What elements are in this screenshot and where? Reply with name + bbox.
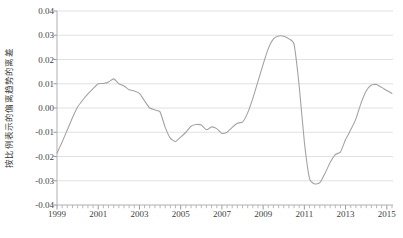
plot-area <box>0 0 403 238</box>
y-axis-major-ticks <box>54 11 58 205</box>
chart-container: 按比例表示的偏离趋势的离差 0.040.030.020.010.00-0.01-… <box>0 0 403 238</box>
gridlines <box>57 11 393 181</box>
x-axis-minor-ticks <box>57 205 392 210</box>
data-series-line <box>57 36 392 184</box>
